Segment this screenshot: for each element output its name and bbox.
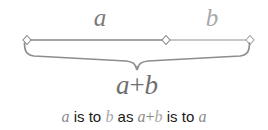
- caption-as: as: [118, 108, 134, 125]
- caption-is-to-second: is to: [167, 108, 195, 125]
- sum-label: a+b: [77, 72, 197, 99]
- sum-label-b: b: [145, 70, 159, 100]
- caption-var-a-last: a: [198, 108, 206, 125]
- caption-sum-a: a: [138, 108, 146, 125]
- golden-ratio-diagram: a b a+b a is to b as a+b is to a: [0, 0, 268, 130]
- middle-point-diamond-icon: [162, 36, 170, 45]
- caption-var-a-first: a: [62, 108, 70, 125]
- caption-is-to-first: is to: [74, 108, 102, 125]
- total-length-brace: [25, 43, 250, 70]
- caption-sum-plus: +: [146, 108, 155, 125]
- caption: a is to b as a+b is to a: [0, 107, 268, 128]
- caption-sum-b: b: [155, 108, 163, 125]
- sum-label-a: a: [116, 70, 130, 100]
- sum-label-plus-operator: +: [129, 70, 144, 100]
